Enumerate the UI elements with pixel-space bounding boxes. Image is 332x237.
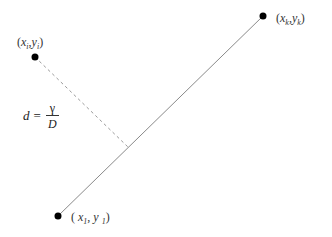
point-1-label: ( x1, y 1): [71, 211, 110, 226]
point-1-dot: [55, 213, 62, 220]
point-i-dot: [32, 54, 39, 61]
formula-equals: =: [34, 108, 41, 124]
line-segment: [58, 16, 263, 216]
formula-fraction: γ D: [46, 102, 59, 130]
formula-numerator: γ: [50, 102, 55, 115]
formula-lhs: d: [23, 108, 30, 124]
distance-formula: d = γ D: [23, 102, 59, 130]
point-i-label: (xi,yi): [17, 36, 43, 51]
formula-denominator: D: [48, 116, 57, 130]
point-k-label: (xk,yk): [276, 12, 305, 27]
point-k-dot: [260, 13, 267, 20]
